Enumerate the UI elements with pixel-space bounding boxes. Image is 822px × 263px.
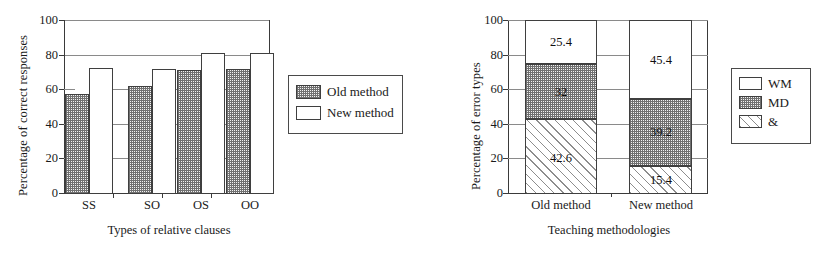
gridline-100 — [64, 20, 270, 21]
gridline-80 — [64, 55, 270, 56]
plot-right-edge — [707, 20, 708, 194]
y-tick-80: 80 — [473, 47, 503, 62]
y-tickmark-100 — [59, 20, 64, 21]
bar-ss-new-method — [89, 68, 113, 194]
y-tick-20: 20 — [28, 151, 58, 166]
white-swatch-icon — [296, 106, 321, 120]
white-swatch-icon — [739, 77, 762, 90]
data-label-old-wm: 25.4 — [550, 35, 572, 50]
y-axis-line — [508, 20, 509, 194]
gridline-stub-20-a — [508, 158, 525, 159]
gridline-stub-40-a — [508, 124, 525, 125]
gridline-stub-80-a — [508, 55, 525, 56]
legend-left: Old method New method — [288, 75, 403, 134]
gridline-stub-60-a — [508, 89, 525, 90]
x-axis-label: Teaching methodologies — [509, 223, 709, 238]
y-tickmark-0 — [59, 193, 64, 194]
figure-container: Percentage of correct responses 0 20 40 … — [0, 0, 822, 263]
legend-label-amp: & — [768, 114, 778, 130]
chart-panel-left: Percentage of correct responses 0 20 40 … — [0, 0, 411, 263]
dotted-swatch-icon — [739, 96, 762, 109]
legend-item-md: MD — [739, 93, 803, 112]
x-tick-ss: SS — [69, 198, 109, 213]
x-tick-os: OS — [181, 198, 221, 213]
y-tick-80: 80 — [28, 47, 58, 62]
gridline-stub-60-b — [597, 89, 629, 90]
data-label-new-md: 39.2 — [650, 125, 672, 140]
x-tick-so: SO — [132, 198, 172, 213]
chart-panel-right: Percentage of error types 0 20 40 60 80 … — [411, 0, 822, 263]
gridline-stub-60-c — [692, 89, 708, 90]
data-label-new-amp: 15.4 — [650, 173, 672, 188]
y-tickmark-80 — [59, 55, 64, 56]
gridline-stub-20-b — [113, 158, 128, 159]
bar-oo-new-method — [250, 53, 274, 194]
gridline-stub-20-b — [597, 158, 629, 159]
legend-label-new-method: New method — [327, 105, 394, 121]
gridline-stub-80-b — [597, 55, 629, 56]
x-axis-label: Types of relative clauses — [67, 223, 271, 238]
x-tick-oo: OO — [230, 198, 270, 213]
legend-label-wm: WM — [768, 76, 792, 92]
y-tick-60: 60 — [28, 82, 58, 97]
y-tick-20: 20 — [473, 151, 503, 166]
bar-oo-old-method — [226, 69, 250, 195]
bar-os-old-method — [177, 70, 201, 194]
x-tickmark-1 — [611, 193, 612, 197]
bar-so-old-method — [128, 86, 152, 194]
bar-so-new-method — [152, 69, 176, 195]
legend-right: WM MD & — [731, 68, 811, 144]
gridline-stub-40-c — [692, 124, 708, 125]
gridline-stub-40-b — [113, 124, 128, 125]
y-tick-40: 40 — [28, 116, 58, 131]
y-tick-0: 0 — [473, 186, 503, 201]
gridline-stub-20-c — [692, 158, 708, 159]
y-tick-100: 100 — [28, 13, 58, 28]
x-tickmark-1 — [113, 193, 114, 198]
y-tick-100: 100 — [473, 13, 503, 28]
hatched-swatch-icon — [739, 115, 762, 128]
legend-label-old-method: Old method — [327, 84, 389, 100]
legend-label-md: MD — [768, 95, 789, 111]
x-tick-old-method: Old method — [521, 198, 601, 213]
dotted-swatch-icon — [296, 85, 321, 99]
y-tick-60: 60 — [473, 82, 503, 97]
bar-os-new-method — [201, 53, 225, 194]
legend-item-new-method: New method — [296, 102, 395, 123]
y-tick-40: 40 — [473, 116, 503, 131]
y-tickmark-100 — [503, 20, 508, 21]
data-label-old-amp: 42.6 — [550, 151, 572, 166]
gridline-stub-40-b — [597, 124, 629, 125]
legend-item-wm: WM — [739, 74, 803, 93]
data-label-new-wm: 45.4 — [650, 53, 672, 68]
y-tick-0: 0 — [28, 186, 58, 201]
y-tickmark-0 — [503, 193, 508, 194]
data-label-old-md: 32 — [555, 85, 568, 100]
gridline-stub-60-b — [113, 89, 128, 90]
x-tick-new-method: New method — [621, 198, 701, 213]
gridline-stub-80-c — [692, 55, 708, 56]
legend-item-amp: & — [739, 112, 803, 131]
bar-ss-old-method — [65, 94, 89, 195]
gridline-stub-60-a — [64, 89, 75, 90]
legend-item-old-method: Old method — [296, 81, 395, 102]
